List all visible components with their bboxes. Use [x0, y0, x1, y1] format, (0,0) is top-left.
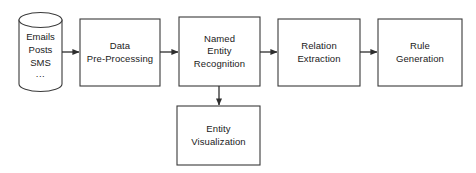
flowchart-graphics [0, 0, 476, 173]
data-sources-datastore [19, 13, 62, 92]
node-box-rule-generation [378, 19, 462, 86]
datastore-top-ellipse [19, 13, 62, 28]
node-box-entity-visualization [177, 106, 260, 165]
flowchart-canvas: Emails Posts SMS ... Data Pre-Processing… [0, 0, 476, 173]
node-box-relation-extraction [278, 19, 360, 86]
node-box-named-entity-recognition [179, 17, 260, 86]
node-box-data-preprocessing [80, 19, 160, 86]
